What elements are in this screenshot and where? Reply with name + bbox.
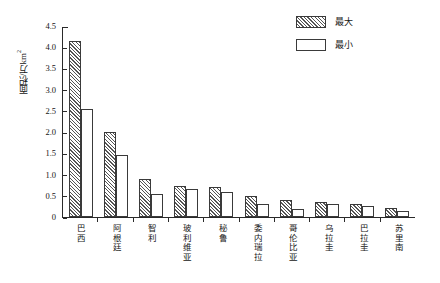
x-axis-ticks bbox=[62, 218, 415, 222]
legend-swatch-max-icon bbox=[296, 16, 326, 28]
bar-min bbox=[151, 194, 163, 217]
plot-area: 4.54.03.53.02.52.01.51.00.50 bbox=[62, 27, 415, 218]
bar-group bbox=[239, 27, 274, 217]
bar-max bbox=[69, 41, 81, 217]
bar-min bbox=[257, 204, 269, 217]
bar-group bbox=[98, 27, 133, 217]
bar-group bbox=[380, 27, 415, 217]
x-axis-label: 秘鲁 bbox=[216, 224, 226, 282]
bar-max bbox=[315, 202, 327, 217]
bar-max bbox=[280, 200, 292, 217]
x-axis-tick bbox=[274, 218, 275, 222]
y-axis-title-superscript: 2 bbox=[16, 50, 22, 53]
legend-swatch-min-icon bbox=[296, 39, 326, 51]
bar-max bbox=[139, 179, 151, 217]
legend-item-min: 最小 bbox=[296, 37, 353, 53]
bar-group bbox=[169, 27, 204, 217]
y-tick-label: 3.0 bbox=[45, 85, 56, 96]
x-label-cell: 乌拉圭 bbox=[309, 224, 344, 282]
x-axis-tick bbox=[203, 218, 204, 222]
x-label-cell: 委内瑞拉 bbox=[238, 224, 273, 282]
bar-min bbox=[186, 189, 198, 217]
y-tick-label: 1.5 bbox=[45, 148, 56, 159]
x-label-cell: 秘鲁 bbox=[203, 224, 238, 282]
y-tick-label: 0.5 bbox=[45, 191, 56, 202]
x-label-cell: 阿根廷 bbox=[97, 224, 132, 282]
x-axis-label: 苏里南 bbox=[393, 224, 403, 282]
x-label-cell: 苏里南 bbox=[380, 224, 415, 282]
bar-min bbox=[221, 192, 233, 217]
bar-groups bbox=[63, 27, 415, 217]
bar-max bbox=[385, 208, 397, 217]
bar-min bbox=[292, 209, 304, 217]
y-tick-label: 2.0 bbox=[45, 127, 56, 138]
chart-legend: 最大 最小 bbox=[296, 14, 353, 60]
bar-min bbox=[327, 204, 339, 217]
bar-group bbox=[204, 27, 239, 217]
x-axis-label: 乌拉圭 bbox=[322, 224, 332, 282]
y-tick-label: 1.0 bbox=[45, 170, 56, 181]
x-axis-tick bbox=[97, 218, 98, 222]
legend-label-min: 最小 bbox=[335, 39, 353, 51]
x-axis-label: 哥伦比亚 bbox=[287, 224, 297, 282]
y-axis-title-text: 面积/万km bbox=[18, 53, 28, 94]
bar-max bbox=[104, 132, 116, 217]
y-tick-label: 4.0 bbox=[45, 42, 56, 53]
x-axis-label: 巴西 bbox=[75, 224, 85, 282]
x-axis-tick bbox=[309, 218, 310, 222]
x-axis-label: 阿根廷 bbox=[110, 224, 120, 282]
x-axis-label: 智利 bbox=[145, 224, 155, 282]
x-label-cell: 巴拉圭 bbox=[344, 224, 379, 282]
bar-max bbox=[174, 186, 186, 217]
y-tick-label: 2.5 bbox=[45, 106, 56, 117]
bar-group bbox=[133, 27, 168, 217]
x-axis-labels: 巴西阿根廷智利玻利维亚秘鲁委内瑞拉哥伦比亚乌拉圭巴拉圭苏里南 bbox=[62, 224, 415, 282]
x-axis-label: 委内瑞拉 bbox=[251, 224, 261, 282]
x-label-cell: 哥伦比亚 bbox=[274, 224, 309, 282]
legend-item-max: 最大 bbox=[296, 14, 353, 30]
bar-max bbox=[245, 196, 257, 217]
bar-min bbox=[397, 211, 409, 217]
legend-label-max: 最大 bbox=[335, 16, 353, 28]
x-label-cell: 玻利维亚 bbox=[168, 224, 203, 282]
x-axis-tick bbox=[133, 218, 134, 222]
y-tick-label: 0 bbox=[52, 212, 56, 223]
y-tick-label: 3.5 bbox=[45, 63, 56, 74]
x-label-cell: 巴西 bbox=[62, 224, 97, 282]
x-axis-tick bbox=[168, 218, 169, 222]
x-axis-tick bbox=[344, 218, 345, 222]
bar-chart: 面积/万km2 4.54.03.53.02.52.01.51.00.50 巴西阿… bbox=[0, 0, 440, 283]
bar-group bbox=[63, 27, 98, 217]
x-axis-label: 巴拉圭 bbox=[357, 224, 367, 282]
x-axis-label: 玻利维亚 bbox=[181, 224, 191, 282]
y-tick-label: 4.5 bbox=[45, 21, 56, 32]
y-axis-title: 面积/万km2 bbox=[14, 50, 30, 94]
x-axis-tick bbox=[380, 218, 381, 222]
bar-min bbox=[116, 155, 128, 217]
bar-min bbox=[81, 109, 93, 217]
bar-max bbox=[209, 187, 221, 217]
x-label-cell: 智利 bbox=[133, 224, 168, 282]
x-axis-tick bbox=[239, 218, 240, 222]
bar-min bbox=[362, 206, 374, 217]
bar-max bbox=[350, 204, 362, 217]
